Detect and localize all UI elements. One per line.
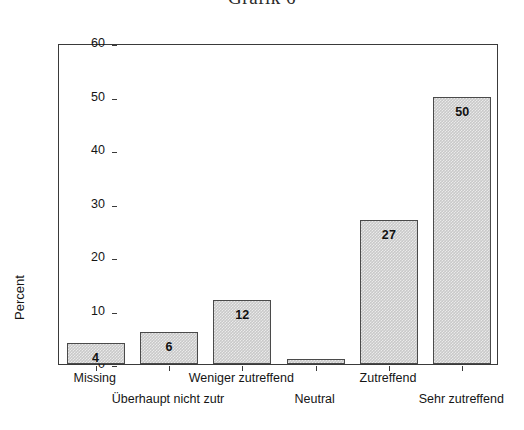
x-axis-tick-mark	[169, 366, 170, 371]
y-axis-title: Percent	[12, 253, 27, 343]
y-axis-tick-label: 60	[91, 36, 105, 50]
bar: 27	[360, 220, 418, 364]
bar: 6	[140, 332, 198, 364]
plot-area: 0102030405060 46122750	[58, 44, 498, 365]
bar: 4	[67, 343, 125, 364]
x-axis-label: Sehr zutreffend	[419, 392, 504, 406]
y-axis-tick-mark	[112, 259, 117, 260]
y-axis-tick-label: 50	[91, 90, 105, 104]
bar-value-label: 6	[141, 340, 197, 354]
x-axis-label: Zutreffend	[360, 371, 417, 385]
x-axis-tick-mark	[316, 366, 317, 371]
y-axis-tick-mark	[112, 206, 117, 207]
y-axis-tick-mark	[112, 313, 117, 314]
chart-title: Grafik 6	[0, 0, 524, 9]
bar: 50	[433, 97, 491, 365]
x-axis-label: Missing	[73, 371, 115, 385]
bar: 12	[213, 300, 271, 364]
x-axis-label: Weniger zutreffend	[189, 371, 294, 385]
bar-value-label: 4	[68, 351, 124, 365]
y-axis-tick-mark	[112, 152, 117, 153]
y-axis-tick-label: 30	[91, 197, 105, 211]
x-axis-tick-mark	[462, 366, 463, 371]
bar-value-label: 50	[434, 105, 490, 119]
bar	[287, 359, 345, 364]
bar-value-label: 12	[214, 308, 270, 322]
y-axis-tick-label: 40	[91, 143, 105, 157]
bar-value-label: 27	[361, 228, 417, 242]
x-axis-label: Überhaupt nicht zutr	[112, 392, 225, 406]
x-axis-label: Neutral	[295, 392, 335, 406]
y-axis-tick-label: 10	[91, 304, 105, 318]
y-axis-tick-mark	[112, 45, 117, 46]
y-axis-tick-mark	[112, 99, 117, 100]
y-axis-tick-label: 20	[91, 250, 105, 264]
y-axis-tick-mark	[112, 366, 117, 367]
